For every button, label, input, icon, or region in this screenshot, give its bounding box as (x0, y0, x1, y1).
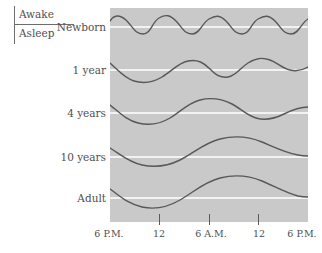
curve-10-years (110, 137, 308, 167)
legend-vertical-rule (14, 6, 15, 44)
plot-panel (110, 8, 308, 222)
curve-4-years (110, 99, 308, 125)
legend-label-awake: Awake (19, 6, 54, 23)
curves-svg (110, 8, 308, 222)
legend-label-asleep: Asleep (19, 25, 54, 42)
row-label-newborn: Newborn (57, 21, 106, 33)
xlabel-6pm-start: 6 P.M. (94, 228, 123, 239)
row-label-adult: Adult (77, 192, 106, 204)
baselines (110, 27, 308, 198)
xtick-12-noon (258, 214, 259, 225)
xtick-6am (209, 214, 210, 225)
xlabel-6am: 6 A.M. (195, 228, 227, 239)
xlabel-6pm-end: 6 P.M. (287, 228, 316, 239)
row-label-4-years: 4 years (67, 107, 106, 119)
curve-adult (110, 176, 308, 208)
row-label-1-year: 1 year (73, 64, 106, 76)
row-label-10-years: 10 years (60, 151, 106, 163)
xtick-12-night (159, 214, 160, 225)
xlabel-12-noon: 12 (253, 228, 265, 239)
xlabel-12-night: 12 (153, 228, 165, 239)
sleep-cycle-figure: Awake Asleep Newborn 1 year 4 years 10 y… (0, 0, 322, 253)
curve-newborn (110, 16, 308, 34)
